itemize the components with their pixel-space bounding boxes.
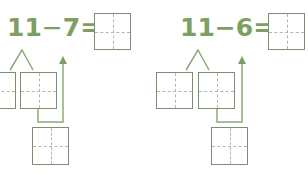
arrow-up-icon: [238, 56, 246, 64]
equation-left: 11−7=: [7, 13, 101, 43]
split-lines-left: [10, 50, 33, 70]
split-box-right-1[interactable]: [156, 72, 193, 109]
subtrahend: 6: [236, 13, 253, 42]
intermediate-box-left[interactable]: [32, 127, 69, 165]
split-box-right-2[interactable]: [198, 72, 235, 109]
minus-sign: −: [42, 13, 63, 42]
minuend: 11: [180, 13, 215, 42]
equation-right: 11−6=: [180, 13, 274, 43]
subtrahend: 7: [63, 13, 80, 42]
split-lines-right: [186, 50, 209, 70]
split-box-left-2[interactable]: [20, 72, 57, 109]
arrow-up-icon: [59, 56, 67, 64]
minuend: 11: [7, 13, 42, 42]
answer-box-right[interactable]: [268, 13, 305, 50]
split-box-left-1[interactable]: [0, 72, 16, 109]
intermediate-box-right[interactable]: [211, 127, 248, 165]
minus-sign: −: [215, 13, 236, 42]
answer-box-left[interactable]: [94, 13, 131, 50]
